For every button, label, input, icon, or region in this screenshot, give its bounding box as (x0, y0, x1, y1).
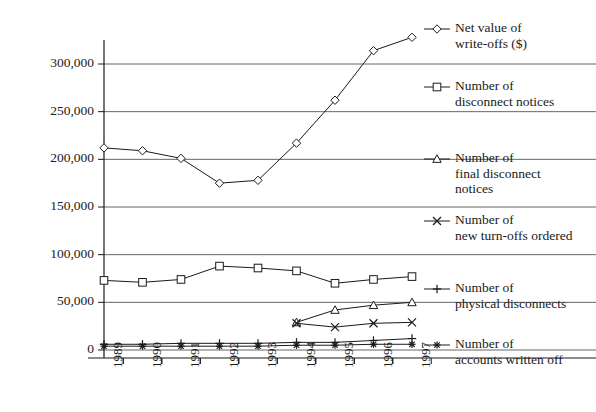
data-point-diamond (100, 144, 108, 152)
legend-marker-star (422, 338, 452, 352)
x-tick-label: 1996 (380, 342, 396, 368)
data-point-triangle (292, 318, 300, 326)
data-point-square (293, 267, 301, 275)
y-tick-label: 200,000 (8, 150, 94, 166)
data-point-diamond (138, 147, 146, 155)
data-point-star (177, 343, 184, 350)
data-point-star (254, 343, 261, 350)
legend-entry[interactable]: Number offinal disconnectnotices (455, 150, 595, 197)
x-tick-label: 1991 (187, 342, 203, 368)
series-1 (100, 262, 416, 287)
data-point-star (139, 343, 146, 350)
data-point-square (216, 262, 224, 270)
data-point-square (433, 83, 441, 91)
data-point-square (254, 264, 262, 272)
y-tick-label: 100,000 (8, 246, 94, 262)
legend-marker-plus (422, 282, 452, 296)
data-point-diamond (433, 25, 441, 33)
x-tick-label: 1989 (110, 342, 126, 368)
data-point-diamond (408, 33, 416, 41)
legend-marker-triangle (422, 152, 452, 166)
y-tick-label: 50,000 (8, 293, 94, 309)
legend-label-line: Number of (455, 212, 595, 228)
legend-label-line: new turn-offs ordered (455, 228, 595, 244)
data-point-star (216, 343, 223, 350)
legend-label-line: accounts written off (455, 352, 595, 368)
data-point-square (100, 277, 108, 285)
data-point-star (293, 342, 300, 349)
y-tick-label: 150,000 (8, 198, 94, 214)
y-tick-label: 250,000 (8, 103, 94, 119)
data-point-square (408, 273, 416, 281)
legend-marker-diamond (422, 22, 452, 36)
chart-page: 050,000100,000150,000200,000250,000300,0… (0, 0, 596, 412)
legend-label-line: disconnect notices (455, 94, 595, 110)
data-point-diamond (369, 46, 377, 54)
data-point-plus (433, 285, 441, 293)
data-point-square (331, 279, 339, 287)
y-tick-label: 300,000 (8, 55, 94, 71)
data-point-diamond (215, 179, 223, 187)
data-point-star (408, 341, 415, 348)
series-0 (100, 33, 416, 187)
legend-marker-square (422, 80, 452, 94)
legend-entry[interactable]: Number ofphysical disconnects (455, 280, 595, 311)
x-tick-label: 1992 (226, 342, 242, 368)
legend-label-line: Net value of (455, 20, 595, 36)
data-point-star (370, 341, 377, 348)
series-3 (293, 318, 417, 331)
legend-label-line: final disconnect (455, 166, 595, 182)
data-point-square (370, 276, 378, 284)
legend-label-line: Number of (455, 150, 595, 166)
legend-label-line: Number of (455, 336, 595, 352)
legend-label-line: notices (455, 181, 595, 197)
data-point-star (331, 342, 338, 349)
y-tick-label: 0 (8, 341, 94, 357)
x-tick-label: 1993 (264, 342, 280, 368)
legend-marker-cross (422, 214, 452, 228)
legend-label-line: write-offs ($) (455, 36, 595, 52)
legend-entry[interactable]: Number ofdisconnect notices (455, 78, 595, 109)
x-tick-label: 1990 (149, 342, 165, 368)
data-point-square (177, 276, 185, 284)
data-point-square (139, 279, 147, 287)
data-point-star (100, 343, 107, 350)
legend-label-line: Number of (455, 280, 595, 296)
legend-entry[interactable]: Net value ofwrite-offs ($) (455, 20, 595, 51)
legend-label-line: Number of (455, 78, 595, 94)
legend-entry[interactable]: Number ofnew turn-offs ordered (455, 212, 595, 243)
data-point-diamond (177, 154, 185, 162)
x-tick-label: 1995 (341, 342, 357, 368)
legend-label-line: physical disconnects (455, 296, 595, 312)
legend-entry[interactable]: Number ofaccounts written off (455, 336, 595, 367)
data-point-star (433, 341, 440, 348)
x-tick-label: 1994 (303, 342, 319, 368)
